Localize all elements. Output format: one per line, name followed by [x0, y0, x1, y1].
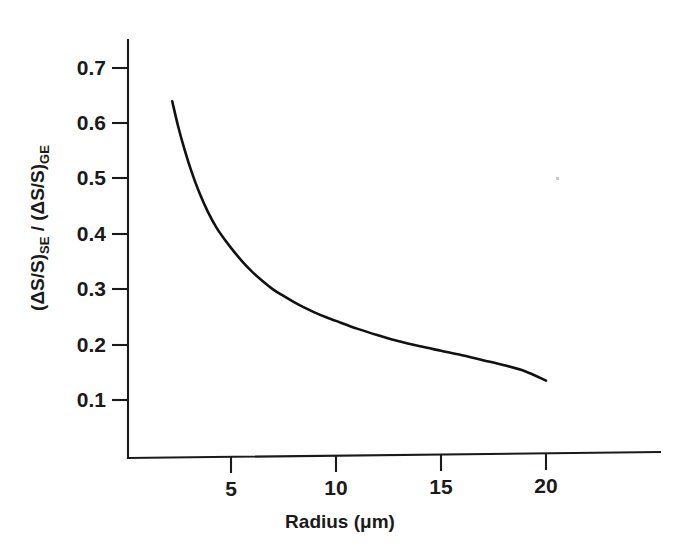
y-tick-label-0.3: 0.3	[77, 277, 106, 300]
y-axis-title-denominator-sub: GE	[37, 145, 52, 164]
y-tick-label-0.5: 0.5	[77, 166, 107, 189]
y-tick-label-0.7: 0.7	[77, 56, 106, 79]
x-tick-label-5: 5	[225, 477, 237, 500]
x-tick-label-10: 10	[324, 476, 347, 499]
y-tick-label-0.1: 0.1	[77, 388, 107, 411]
y-axis-title-numerator: (ΔS/S)	[27, 254, 48, 311]
y-axis-title-numerator-sub: SE	[37, 236, 52, 254]
y-axis-title-denominator: (ΔS/S)	[27, 164, 48, 221]
x-axis-title: Radius (μm)	[285, 511, 395, 532]
figure-page: 0.7 0.6 0.5 0.4 0.3 0.2 0.1 5 10 15 20 R…	[0, 0, 679, 558]
chart-figure: 0.7 0.6 0.5 0.4 0.3 0.2 0.1 5 10 15 20 R…	[0, 0, 679, 558]
y-tick-label-0.4: 0.4	[77, 222, 107, 245]
y-tick-label-0.6: 0.6	[77, 111, 106, 134]
y-axis-title-separator: /	[27, 221, 48, 237]
x-tick-label-20: 20	[534, 474, 557, 497]
y-tick-label-0.2: 0.2	[77, 333, 106, 356]
x-tick-label-15: 15	[429, 475, 453, 498]
scan-speck	[556, 177, 559, 180]
